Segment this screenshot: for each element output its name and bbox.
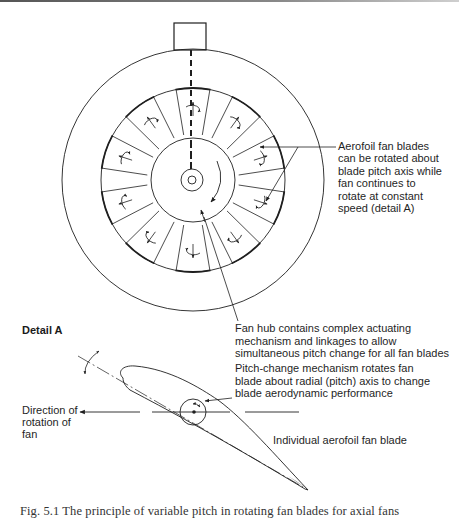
fan-hub-label: Fan hub contains complex actuating mecha…	[235, 322, 449, 360]
fan-blade	[126, 96, 174, 149]
figure-caption: Fig. 5.1 The principle of variable pitch…	[20, 504, 399, 519]
fan-blade	[233, 136, 285, 175]
rotation-direction-label: Direction of rotation of fan	[22, 405, 78, 440]
detail-a-title: Detail A	[22, 324, 63, 336]
aerofoil-tip	[288, 476, 309, 490]
fan-blade	[101, 185, 153, 224]
individual-blade-label: Individual aerofoil fan blade	[273, 434, 407, 446]
fan-blade	[233, 185, 285, 224]
fan-hub	[151, 138, 235, 222]
fan-blade	[101, 136, 153, 175]
pitch-change-label: Pitch-change mechanism rotates fan blade…	[235, 362, 430, 400]
pitch-rotation-arrow	[85, 351, 99, 374]
hub-leader-line	[204, 217, 238, 321]
fan-blade	[126, 211, 174, 264]
fan-blade	[212, 211, 260, 264]
aerofoil-blades-label: Aerofoil fan blades can be rotated about…	[338, 140, 442, 214]
fan-blade	[176, 88, 211, 135]
fan-blade	[212, 96, 260, 149]
actuator-box	[174, 23, 206, 50]
fan-blade	[176, 225, 211, 272]
pitch-pivot-dot	[192, 410, 196, 414]
pitch-small-arrow	[193, 404, 200, 407]
